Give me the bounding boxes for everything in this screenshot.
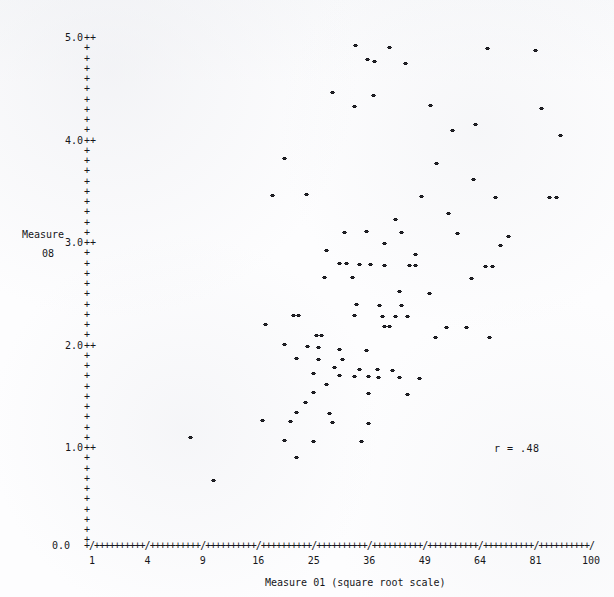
data-point (316, 345, 321, 350)
x-axis-tick-label: 64 (474, 556, 486, 566)
data-point (413, 252, 418, 257)
correlation-annotation: r = .48 (494, 444, 540, 454)
data-point (399, 230, 404, 235)
data-point (352, 313, 357, 318)
data-point (428, 103, 433, 108)
data-point (330, 90, 335, 95)
data-point (558, 133, 563, 138)
data-point (547, 195, 552, 200)
data-point (344, 261, 349, 266)
data-point (372, 59, 377, 64)
y-axis-tick-glyph: + (84, 166, 90, 176)
data-point (324, 382, 329, 387)
data-point (294, 455, 299, 460)
data-point (359, 439, 364, 444)
data-point (352, 374, 357, 379)
data-point (366, 391, 371, 396)
data-point (382, 263, 387, 268)
data-point (407, 263, 412, 268)
y-axis-tick-glyph: + (84, 453, 90, 463)
data-point (387, 324, 392, 329)
y-axis-tick-glyph: + (84, 84, 90, 94)
data-point (305, 344, 310, 349)
y-axis-tick-glyph: + (84, 43, 90, 53)
data-point (405, 392, 410, 397)
x-axis-title: Measure 01 (square root scale) (265, 578, 446, 588)
data-point (533, 48, 538, 53)
y-axis-tick-label: 2.0 (65, 341, 84, 351)
data-point (380, 314, 385, 319)
data-point (371, 93, 376, 98)
data-point (316, 357, 321, 362)
y-axis-tick-glyph: + (84, 371, 90, 381)
data-point (282, 438, 287, 443)
x-axis-tick-label: 4 (144, 556, 150, 566)
x-axis-tick-label: 16 (252, 556, 264, 566)
data-point (357, 367, 362, 372)
x-axis-tick-label: 100 (582, 556, 600, 566)
y-axis-tick-glyph: + (84, 289, 90, 299)
data-point (303, 400, 308, 405)
y-axis: ++5.0+++++++++++4.0+++++++++++3.0+++++++… (84, 33, 98, 546)
data-point (322, 275, 327, 280)
data-point (450, 128, 455, 133)
data-point (294, 356, 299, 361)
data-point (471, 177, 476, 182)
data-point (211, 478, 216, 483)
data-point (311, 390, 316, 395)
data-point (350, 275, 355, 280)
x-axis-line: +/++++++++++/++++++++++/++++++++++/+++++… (84, 541, 594, 551)
data-point (282, 156, 287, 161)
data-point (433, 335, 438, 340)
data-point (397, 289, 402, 294)
data-point (352, 104, 357, 109)
data-point (490, 264, 495, 269)
x-axis-tick-label: 36 (363, 556, 375, 566)
y-axis-tick: + (84, 248, 98, 258)
data-point (353, 43, 358, 48)
data-point (366, 374, 371, 379)
y-axis-tick: + (84, 412, 98, 422)
data-point (469, 276, 474, 281)
y-axis-title: Measure (22, 228, 64, 241)
data-point (382, 324, 387, 329)
y-axis-tick: + (84, 84, 98, 94)
data-point (377, 303, 382, 308)
y-axis-tick-label: 4.0 (65, 136, 84, 146)
data-point (304, 192, 309, 197)
data-point (366, 421, 371, 426)
data-point (319, 333, 324, 338)
data-point (403, 61, 408, 66)
y-axis-tick-glyph: + (84, 125, 90, 135)
data-point (397, 375, 402, 380)
y-axis-tick: + (84, 494, 98, 504)
data-point (188, 435, 193, 440)
data-point (337, 261, 342, 266)
data-point (417, 376, 422, 381)
scatter-plot-page: Measure 08 ++5.0+++++++++++4.0++++++++++… (0, 0, 614, 597)
data-point (324, 248, 329, 253)
y-axis-tick-label: 3.0 (65, 238, 84, 248)
x-axis-tick-label: 49 (419, 556, 431, 566)
data-point (357, 262, 362, 267)
data-point (270, 193, 275, 198)
y-axis-tick-glyph: + (84, 207, 90, 217)
data-point (314, 333, 319, 338)
data-point (387, 45, 392, 50)
data-point (434, 161, 439, 166)
data-point (375, 367, 380, 372)
data-point (330, 420, 335, 425)
data-point (473, 122, 478, 127)
x-axis-tick-label: 25 (308, 556, 320, 566)
data-point (427, 291, 432, 296)
data-point (393, 314, 398, 319)
data-point (296, 313, 301, 318)
data-point (487, 335, 492, 340)
y-axis-tick-glyph: + (84, 412, 90, 422)
y-axis-tick: + (84, 166, 98, 176)
y-axis-tick-glyph: + (84, 248, 90, 258)
data-point (485, 46, 490, 51)
y-axis-tick-label: 1.0 (65, 443, 84, 453)
data-point (455, 231, 460, 236)
data-point (405, 314, 410, 319)
